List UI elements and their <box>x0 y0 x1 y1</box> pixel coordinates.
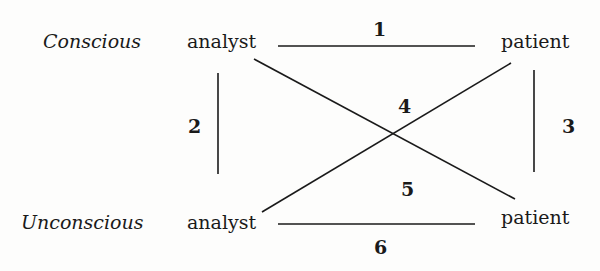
edge-4-line <box>262 63 511 212</box>
edge-label-5: 5 <box>401 180 414 199</box>
edge-label-6: 6 <box>374 238 387 257</box>
edge-5-line <box>254 59 515 199</box>
edge-label-4: 4 <box>398 97 411 116</box>
node-unconscious-analyst: analyst <box>187 213 256 232</box>
row-label-conscious: Conscious <box>43 32 141 51</box>
edge-label-3: 3 <box>562 117 575 136</box>
node-conscious-analyst: analyst <box>187 32 256 51</box>
diagram-canvas: Conscious Unconscious analyst patient an… <box>0 0 600 271</box>
edge-label-2: 2 <box>188 117 201 136</box>
node-unconscious-patient: patient <box>501 208 569 227</box>
edge-label-1: 1 <box>373 20 386 39</box>
row-label-unconscious: Unconscious <box>21 213 143 232</box>
node-conscious-patient: patient <box>501 32 569 51</box>
